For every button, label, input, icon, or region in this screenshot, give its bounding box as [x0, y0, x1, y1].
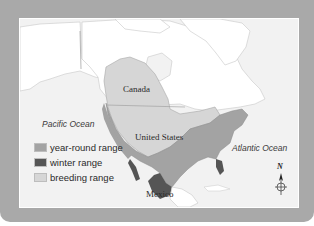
- mexico-label: Mexico: [146, 189, 174, 199]
- legend-year-round: year-round range: [34, 141, 123, 154]
- breeding-swatch: [34, 173, 47, 182]
- legend-label: year-round range: [50, 142, 123, 153]
- central-america: [170, 187, 198, 207]
- legend-breeding: breeding range: [34, 171, 123, 184]
- pacific-ocean-label: Pacific Ocean: [42, 119, 94, 129]
- florida-range: [216, 159, 224, 175]
- compass-rose: N: [274, 165, 288, 197]
- winter-swatch: [34, 158, 47, 167]
- caribbean-islands: [204, 185, 230, 191]
- winter-range-baja: [128, 159, 140, 181]
- legend-label: breeding range: [50, 172, 114, 183]
- year-round-swatch: [34, 143, 47, 152]
- atlantic-ocean-label: Atlantic Ocean: [232, 143, 287, 153]
- north-label: N: [277, 162, 283, 171]
- united-states-label: United States: [135, 132, 183, 142]
- legend-label: winter range: [50, 157, 102, 168]
- map-legend: year-round range winter range breeding r…: [34, 141, 123, 186]
- range-map: Canada United States Mexico Pacific Ocea…: [19, 18, 299, 208]
- canada-label: Canada: [123, 84, 150, 94]
- legend-winter: winter range: [34, 156, 123, 169]
